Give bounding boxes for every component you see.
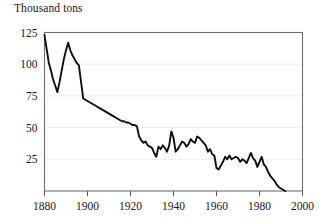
line-chart-svg: 255075100125 188019001920194019601980200… <box>0 0 326 220</box>
x-tick-label: 1980 <box>248 200 271 212</box>
y-tick-label: 75 <box>26 90 38 102</box>
x-tick-label: 1920 <box>119 200 142 212</box>
plot-frame <box>45 33 303 192</box>
x-tick-marks <box>45 191 303 196</box>
y-tick-label: 100 <box>20 58 38 70</box>
chart-page: Thousand tons 255075100125 1880190019201… <box>0 0 326 220</box>
x-tick-label: 1880 <box>33 200 56 212</box>
x-tick-label: 2000 <box>291 200 314 212</box>
data-series-line <box>45 35 286 191</box>
x-tick-label: 1900 <box>76 200 99 212</box>
y-tick-label: 125 <box>20 27 38 39</box>
x-tick-label: 1960 <box>205 200 228 212</box>
y-tick-label: 50 <box>26 122 38 134</box>
y-tick-label: 25 <box>26 153 38 165</box>
x-tick-labels: 1880190019201940196019802000 <box>33 200 314 212</box>
x-tick-label: 1940 <box>162 200 185 212</box>
plot-area: 255075100125 188019001920194019601980200… <box>0 0 326 220</box>
y-tick-labels: 255075100125 <box>20 27 38 166</box>
